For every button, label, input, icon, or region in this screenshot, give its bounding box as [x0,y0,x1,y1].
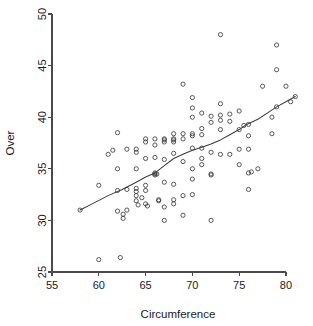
x-tick-label: 70 [186,279,198,291]
y-tick-label: 45 [36,59,48,71]
x-tick-label: 60 [93,279,105,291]
x-tick-label: 75 [233,279,245,291]
x-tick-label: 55 [46,279,58,291]
y-tick-label: 50 [36,8,48,20]
scatter-plot-figure: 556065707580 253035404550 Circumference … [0,0,313,326]
y-tick-label: 30 [36,214,48,226]
x-axis-title: Circumference [141,308,216,320]
x-tick-label: 65 [139,279,151,291]
y-tick-label: 40 [36,111,48,123]
x-tick-label: 80 [280,279,292,291]
y-axis-title: Over [4,130,16,155]
y-tick-label: 35 [36,163,48,175]
chart-canvas: 556065707580 253035404550 Circumference … [0,0,313,326]
y-tick-label: 25 [36,266,48,278]
